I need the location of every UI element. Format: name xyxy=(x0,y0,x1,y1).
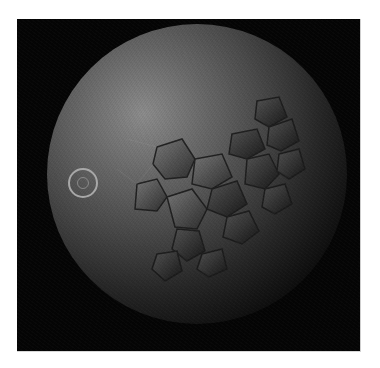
image-panel xyxy=(17,19,361,352)
inner-circle-marker xyxy=(77,177,89,189)
